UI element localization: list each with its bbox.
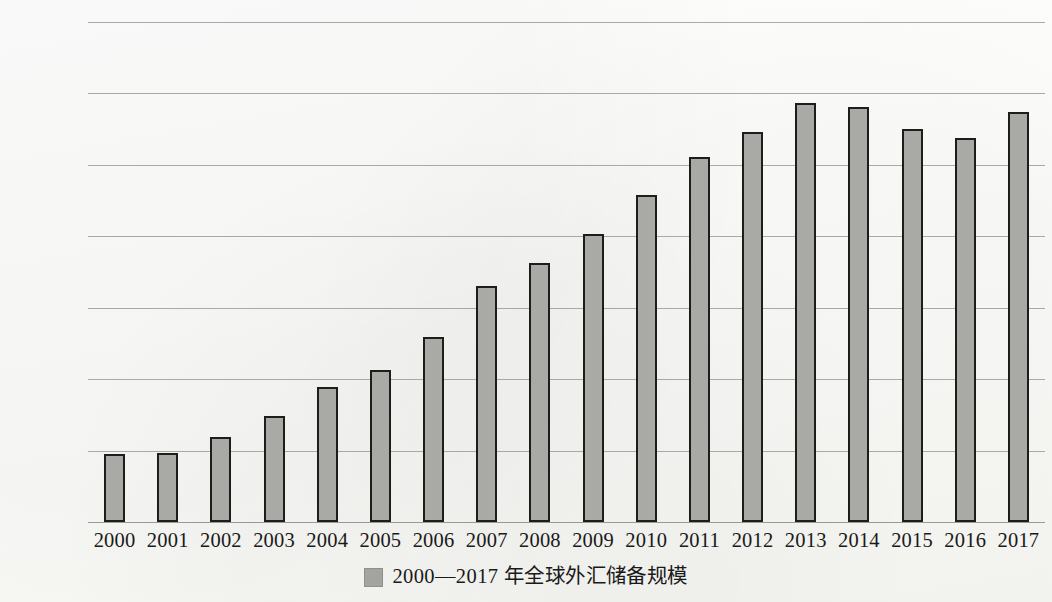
x-tick-label-2017: 2017 bbox=[986, 530, 1050, 551]
bar-2015 bbox=[902, 129, 923, 522]
x-axis: 2000200120022003200420052006200720082009… bbox=[88, 530, 1045, 560]
bar-2006 bbox=[423, 337, 444, 522]
bar-2004 bbox=[317, 387, 338, 522]
gridline-120000 bbox=[88, 93, 1045, 94]
bar-2010 bbox=[636, 195, 657, 522]
bar-2012 bbox=[742, 132, 763, 522]
bar-2003 bbox=[264, 416, 285, 522]
chart-legend: 2000—2017 年全球外汇储备规模 bbox=[0, 566, 1052, 587]
gridline-140000 bbox=[88, 22, 1045, 23]
legend-swatch-reserves bbox=[364, 568, 383, 587]
gridline-0 bbox=[88, 522, 1045, 523]
bar-2013 bbox=[795, 103, 816, 522]
plot-area: 020 00040 00060 00080 000100 000120 0001… bbox=[88, 22, 1045, 522]
bar-2014 bbox=[848, 107, 869, 522]
bar-2007 bbox=[476, 286, 497, 522]
bar-2009 bbox=[583, 234, 604, 522]
bar-2016 bbox=[955, 138, 976, 522]
bar-2017 bbox=[1008, 112, 1029, 522]
bar-2008 bbox=[529, 263, 550, 522]
bar-2011 bbox=[689, 157, 710, 522]
bar-2000 bbox=[104, 454, 125, 522]
bar-2002 bbox=[210, 437, 231, 522]
bar-2001 bbox=[157, 453, 178, 522]
bar-chart: 020 00040 00060 00080 000100 000120 0001… bbox=[0, 0, 1052, 602]
legend-label-reserves: 2000—2017 年全球外汇储备规模 bbox=[392, 566, 687, 587]
bar-2005 bbox=[370, 370, 391, 522]
